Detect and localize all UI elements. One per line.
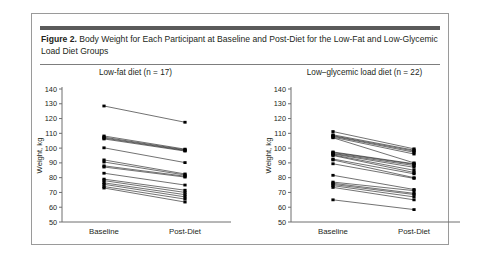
y-tick-label: 110 [45, 129, 57, 138]
y-tick-label: 50 [278, 218, 286, 227]
y-axis-title: Weight, kg [264, 138, 273, 174]
y-tick-label: 120 [274, 114, 286, 123]
chart-title-low-glycemic: Low–glycemic load diet (n = 22) [262, 68, 467, 77]
plot-low-fat: 5060708090100110120130140Weight, kgBasel… [33, 78, 238, 238]
figure-caption: Figure 2. Body Weight for Each Participa… [41, 33, 440, 57]
y-tick-label: 140 [45, 85, 57, 94]
chart-title-low-fat: Low-fat diet (n = 17) [33, 68, 238, 77]
x-tick-label: Baseline [89, 227, 119, 236]
figure-top-rule [40, 26, 440, 30]
participant-line [331, 159, 415, 180]
participant-line [331, 158, 415, 176]
y-tick-label: 70 [278, 188, 286, 197]
participant-line [102, 105, 186, 124]
figure-label: Figure 2. [41, 34, 77, 44]
y-tick-label: 110 [274, 129, 286, 138]
plot-low-glycemic: 5060708090100110120130140Weight, kgBasel… [262, 78, 467, 238]
y-tick-label: 130 [274, 99, 286, 108]
y-tick-label: 80 [278, 173, 286, 182]
y-tick-label: 100 [45, 144, 57, 153]
y-tick-label: 90 [49, 158, 57, 167]
y-tick-label: 100 [274, 144, 286, 153]
participant-line [331, 130, 415, 150]
y-axis-title: Weight, kg [35, 138, 44, 174]
y-tick-label: 120 [45, 114, 57, 123]
x-tick-label: Baseline [318, 227, 348, 236]
x-tick-label: Post-Diet [169, 227, 202, 236]
participant-line [331, 182, 415, 195]
chart-panel-low-fat: Low-fat diet (n = 17) 506070809010011012… [33, 68, 238, 238]
participant-line [331, 198, 415, 211]
y-tick-label: 130 [45, 99, 57, 108]
figure-page: Figure 2. Body Weight for Each Participa… [0, 0, 481, 260]
y-tick-label: 50 [49, 218, 57, 227]
figure-caption-text: Body Weight for Each Participant at Base… [41, 34, 438, 56]
y-tick-label: 60 [278, 203, 286, 212]
y-tick-label: 140 [274, 85, 286, 94]
y-tick-label: 80 [49, 173, 57, 182]
caption-divider [40, 64, 440, 65]
y-tick-label: 70 [49, 188, 57, 197]
y-tick-label: 90 [278, 158, 286, 167]
x-tick-label: Post-Diet [398, 227, 431, 236]
participant-line [102, 179, 186, 194]
y-tick-label: 60 [49, 203, 57, 212]
chart-panel-low-glycemic: Low–glycemic load diet (n = 22) 50607080… [262, 68, 467, 238]
